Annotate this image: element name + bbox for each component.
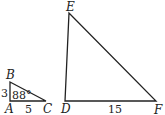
side-ac-length: 5 [25, 103, 32, 115]
triangle-abc: B A C 3 5 88° [1, 68, 52, 115]
triangle-def-outline [65, 13, 156, 101]
angle-a-measure: 88° [12, 89, 32, 102]
vertex-label-c: C [43, 102, 52, 115]
vertex-label-b: B [5, 68, 15, 82]
vertex-label-a: A [4, 102, 14, 115]
vertex-label-e: E [65, 0, 75, 14]
side-ab-length: 3 [1, 87, 8, 100]
side-df-length: 15 [108, 103, 122, 115]
vertex-label-d: D [60, 102, 71, 115]
triangle-def: E D F 15 [60, 0, 163, 115]
vertex-label-f: F [153, 103, 163, 115]
similar-triangles-diagram: B A C 3 5 88° E D F 15 [0, 0, 165, 115]
